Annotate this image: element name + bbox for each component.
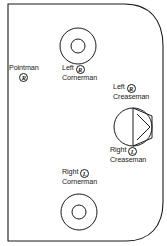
label-right-creaseman-text1: Right bbox=[110, 145, 126, 154]
label-right-cornerman-line2: Cornerman bbox=[62, 178, 97, 186]
label-left-cornerman: Left R Cornerman bbox=[62, 64, 97, 82]
label-left-cornerman-text1: Left bbox=[62, 63, 74, 72]
field-boundary bbox=[8, 4, 163, 241]
label-left-cornerman-line2: Cornerman bbox=[62, 74, 97, 82]
label-right-cornerman: Right L Cornerman bbox=[62, 168, 97, 186]
label-pointman: Pointman R bbox=[9, 64, 39, 82]
label-left-creaseman-text1: Left bbox=[113, 82, 125, 91]
label-left-creaseman: Left R Creaseman bbox=[113, 83, 149, 101]
label-right-creaseman: Right L Creaseman bbox=[110, 146, 146, 164]
lacrosse-formation-diagram: Pointman R Left R Cornerman Left R Creas… bbox=[0, 0, 167, 246]
bottom-circle bbox=[61, 194, 97, 230]
label-left-creaseman-line2: Creaseman bbox=[113, 93, 149, 101]
label-right-creaseman-line2: Creaseman bbox=[110, 156, 146, 164]
top-circle bbox=[60, 28, 96, 64]
handedness-badge-pointman: R bbox=[19, 73, 28, 82]
label-pointman-hand-row: R bbox=[9, 72, 39, 82]
field-graphics bbox=[0, 0, 167, 246]
label-pointman-line1: Pointman bbox=[9, 64, 39, 72]
goal-crease bbox=[114, 108, 152, 146]
label-right-cornerman-text1: Right bbox=[62, 167, 78, 176]
